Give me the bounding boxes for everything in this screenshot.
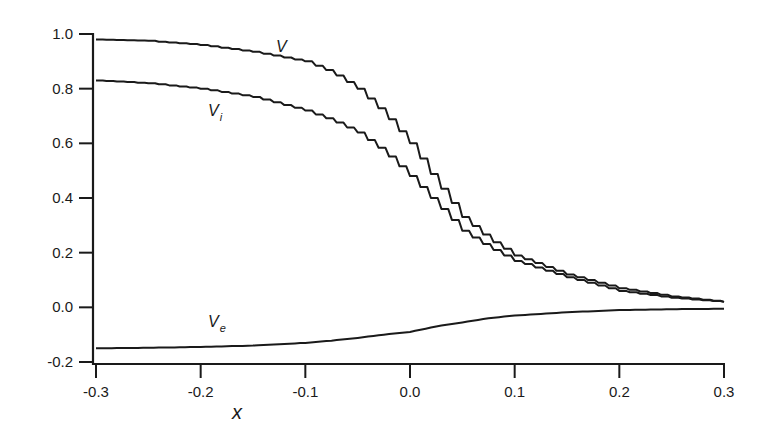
x-tick-label: 0.3 [714,383,735,400]
y-tick-label: -0.2 [47,353,73,370]
x-tick-label: -0.3 [83,383,109,400]
line-chart: -0.20.00.20.40.60.81.0-0.3-0.2-0.10.00.1… [0,0,771,442]
x-axis-label: x [231,401,243,423]
y-tick-label: 0.0 [52,298,73,315]
series-line-v-e [96,309,724,349]
series-labels: VViVe [208,38,288,334]
series-label-v: V [276,38,288,55]
y-tick-label: 0.4 [52,189,73,206]
x-tick-label: 0.0 [400,383,421,400]
x-tick-label: -0.1 [292,383,318,400]
series-label-v-e: Ve [208,313,226,334]
series-label-v-i: Vi [208,102,223,123]
series-line-v-i [96,81,724,302]
plot-area [96,40,724,349]
y-tick-label: 0.2 [52,244,73,261]
x-tick-label: 0.2 [609,383,630,400]
axes: -0.20.00.20.40.60.81.0-0.3-0.2-0.10.00.1… [47,25,734,400]
series-line-v [96,40,724,302]
y-tick-label: 0.8 [52,80,73,97]
x-tick-label: -0.2 [188,383,214,400]
y-tick-label: 1.0 [52,25,73,42]
y-tick-label: 0.6 [52,134,73,151]
x-tick-label: 0.1 [504,383,525,400]
